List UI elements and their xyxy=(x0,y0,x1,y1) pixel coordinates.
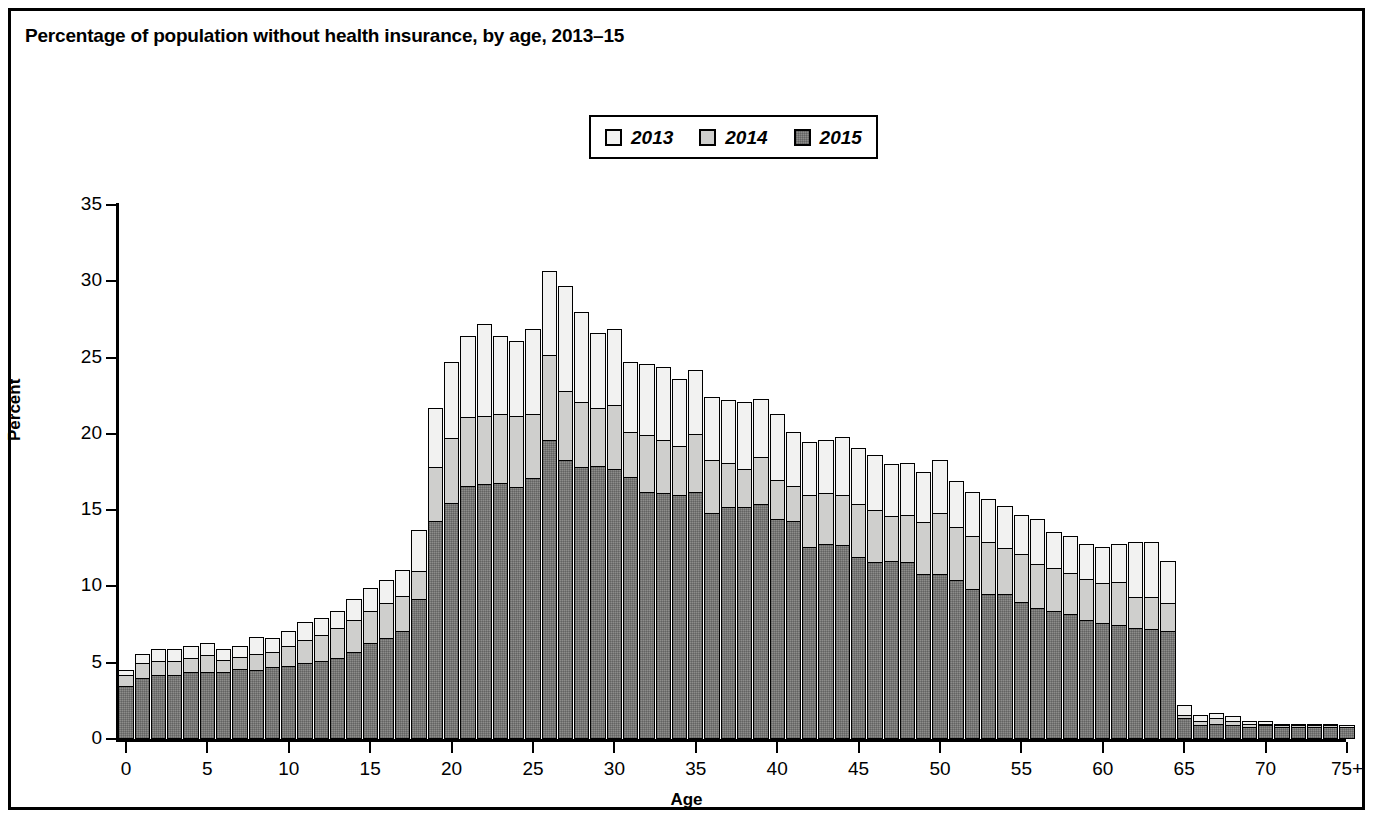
bar-segment-2015 xyxy=(1079,620,1094,739)
bar-segment-2015 xyxy=(249,670,264,739)
bar-group xyxy=(656,205,671,739)
bar-segment-2015 xyxy=(1063,614,1078,739)
bar-group xyxy=(1242,205,1257,739)
bar-segment-2015 xyxy=(1014,602,1029,739)
chart-title: Percentage of population without health … xyxy=(25,25,624,47)
x-tick-55 xyxy=(1020,742,1022,753)
legend-swatch-2013 xyxy=(605,129,622,146)
bar-group xyxy=(786,205,801,739)
bar-group xyxy=(753,205,768,739)
y-tick-35 xyxy=(106,204,116,206)
y-tick-0 xyxy=(106,738,116,740)
y-tick-30 xyxy=(106,280,116,282)
bar-segment-2015 xyxy=(639,492,654,739)
bar-segment-2015 xyxy=(216,672,231,739)
y-axis-label: Percent xyxy=(5,379,25,441)
bar-segment-2015 xyxy=(542,440,557,739)
bar-segment-2015 xyxy=(1095,623,1110,739)
bar-segment-2015 xyxy=(509,487,524,739)
bar-group xyxy=(1307,205,1322,739)
bar-segment-2015 xyxy=(835,545,850,739)
bar-group xyxy=(395,205,410,739)
x-tick-40 xyxy=(776,742,778,753)
x-tick-label-25: 25 xyxy=(503,759,563,778)
bar-segment-2015 xyxy=(574,467,589,739)
legend-swatch-2014 xyxy=(699,129,716,146)
bar-segment-2015 xyxy=(981,594,996,739)
y-tick-label-0: 0 xyxy=(60,728,102,747)
bar-group xyxy=(232,205,247,739)
bar-group xyxy=(444,205,459,739)
x-tick-70 xyxy=(1265,742,1267,753)
x-tick-65 xyxy=(1183,742,1185,753)
bar-group xyxy=(428,205,443,739)
x-tick-45 xyxy=(858,742,860,753)
bar-segment-2015 xyxy=(607,469,622,739)
bar-group xyxy=(1193,205,1208,739)
bar-segment-2015 xyxy=(672,495,687,739)
y-tick-25 xyxy=(106,357,116,359)
x-tick-label-65: 65 xyxy=(1154,759,1214,778)
bar-segment-2015 xyxy=(1225,725,1240,739)
bar-segment-2015 xyxy=(395,631,410,739)
bar-group xyxy=(200,205,215,739)
bar-segment-2015 xyxy=(1046,611,1061,739)
x-tick-10 xyxy=(288,742,290,753)
x-tick-label-0: 0 xyxy=(96,759,156,778)
bar-group xyxy=(1063,205,1078,739)
bar-segment-2015 xyxy=(265,667,280,739)
bar-segment-2015 xyxy=(786,521,801,739)
legend-label-2015: 2015 xyxy=(820,128,862,147)
bar-segment-2015 xyxy=(297,663,312,739)
bar-group xyxy=(1111,205,1126,739)
bar-segment-2015 xyxy=(183,672,198,739)
legend-item-2014: 2014 xyxy=(699,128,767,147)
bar-group xyxy=(672,205,687,739)
bar-group xyxy=(1144,205,1159,739)
x-tick-label-35: 35 xyxy=(666,759,726,778)
bar-group xyxy=(851,205,866,739)
x-tick-30 xyxy=(613,742,615,753)
bar-segment-2015 xyxy=(493,483,508,739)
x-tick-label-55: 55 xyxy=(991,759,1051,778)
bar-group xyxy=(688,205,703,739)
bar-group xyxy=(835,205,850,739)
bar-group xyxy=(818,205,833,739)
bar-group xyxy=(981,205,996,739)
legend-label-2014: 2014 xyxy=(725,128,767,147)
bar-segment-2015 xyxy=(1274,727,1289,739)
bar-segment-2015 xyxy=(867,562,882,739)
plot-area xyxy=(116,205,1344,739)
bar-segment-2015 xyxy=(688,492,703,739)
bar-segment-2015 xyxy=(997,594,1012,739)
bar-segment-2015 xyxy=(949,580,964,739)
bar-group xyxy=(542,205,557,739)
bar-segment-2015 xyxy=(232,669,247,739)
bar-segment-2015 xyxy=(623,477,638,739)
bar-group xyxy=(493,205,508,739)
legend-label-2013: 2013 xyxy=(631,128,673,147)
x-tick-label-30: 30 xyxy=(584,759,644,778)
bar-segment-2015 xyxy=(200,672,215,739)
bar-group xyxy=(363,205,378,739)
bar-segment-2015 xyxy=(656,493,671,739)
bar-group xyxy=(574,205,589,739)
bar-segment-2015 xyxy=(1193,725,1208,739)
bar-group xyxy=(525,205,540,739)
bar-group xyxy=(607,205,622,739)
bar-segment-2015 xyxy=(167,675,182,739)
bar-segment-2015 xyxy=(965,589,980,739)
bar-group xyxy=(411,205,426,739)
bar-group xyxy=(265,205,280,739)
bar-segment-2015 xyxy=(558,460,573,739)
y-tick-label-35: 35 xyxy=(60,194,102,213)
bar-group xyxy=(802,205,817,739)
bar-group xyxy=(965,205,980,739)
bar-group xyxy=(509,205,524,739)
bar-segment-2015 xyxy=(753,504,768,739)
bar-group xyxy=(183,205,198,739)
bar-segment-2015 xyxy=(818,544,833,739)
bar-segment-2015 xyxy=(477,484,492,739)
x-tick-50 xyxy=(939,742,941,753)
bar-group xyxy=(477,205,492,739)
